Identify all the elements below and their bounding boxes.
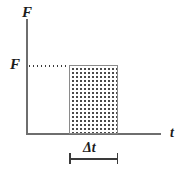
impulse-area-rectangle: [69, 65, 118, 134]
delta-t-right-tick: [117, 153, 119, 164]
dotted-leader-line: [29, 65, 70, 67]
x-axis-name-label: t: [170, 126, 174, 140]
delta-t-left-tick: [69, 153, 71, 164]
delta-t-label: Δt: [83, 141, 96, 155]
y-axis-name-label: F: [22, 5, 32, 20]
force-value-label: F: [10, 57, 20, 72]
y-axis-line: [26, 19, 28, 135]
delta-t-dimension-line: [69, 158, 118, 160]
impulse-force-time-figure: F t F Δt: [0, 0, 192, 171]
